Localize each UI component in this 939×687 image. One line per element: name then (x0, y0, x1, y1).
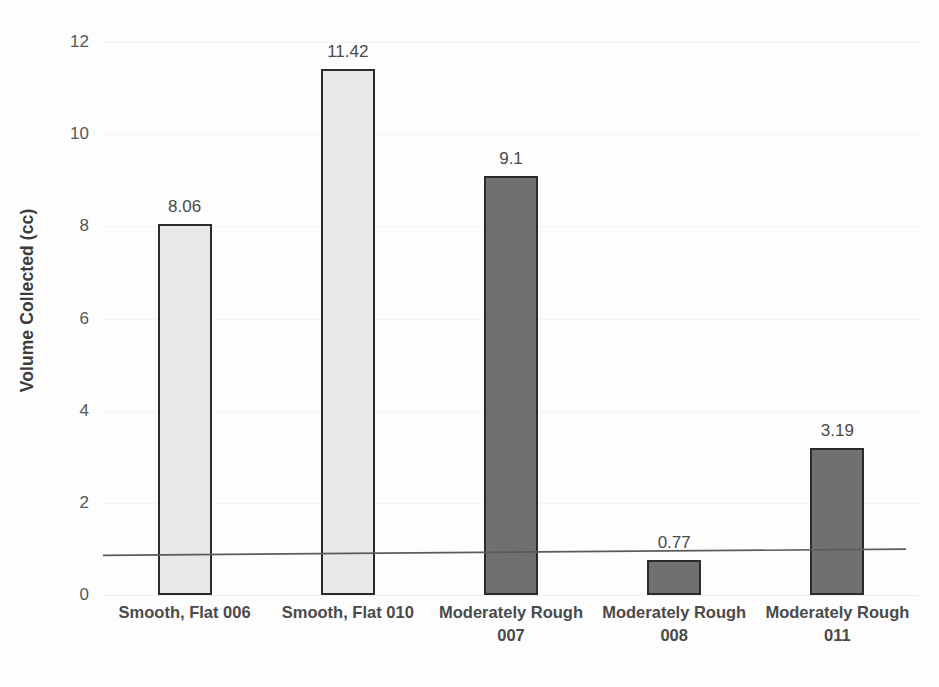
y-tick-label: 6 (57, 309, 103, 329)
y-tick-label: 0 (57, 585, 103, 605)
bar-value-label-5: 3.19 (821, 421, 854, 441)
bar-value-label-2: 11.42 (327, 42, 368, 62)
y-axis-tick-labels: 024681012 (43, 42, 103, 595)
x-label-4: Moderately Rough 008 (592, 601, 757, 648)
x-label-3: Moderately Rough 007 (429, 601, 594, 648)
bar-1 (158, 224, 212, 595)
x-axis-category-labels: Smooth, Flat 006Smooth, Flat 010Moderate… (103, 601, 919, 681)
bar-2 (321, 69, 375, 595)
bar-value-label-1: 8.06 (168, 197, 201, 217)
bar-3 (484, 176, 538, 595)
bar-value-label-3: 9.1 (499, 149, 523, 169)
y-tick-label: 8 (57, 216, 103, 236)
x-label-2: Smooth, Flat 010 (265, 601, 430, 624)
x-label-1: Smooth, Flat 006 (102, 601, 267, 624)
y-tick-label: 10 (57, 124, 103, 144)
bar-value-label-4: 0.77 (658, 533, 691, 553)
gridline (103, 595, 919, 596)
y-tick-label: 12 (57, 32, 103, 52)
y-tick-label: 4 (57, 401, 103, 421)
bar-4 (647, 560, 701, 595)
y-tick-label: 2 (57, 493, 103, 513)
gridline (103, 42, 919, 43)
y-axis-title-text: Volume Collected (cc) (18, 208, 39, 392)
bar-chart: Volume Collected (cc) 024681012 8.0611.4… (0, 0, 939, 687)
plot-area: 8.0611.429.10.773.19 (103, 42, 919, 595)
bar-5 (810, 448, 864, 595)
y-axis-title: Volume Collected (cc) (8, 0, 48, 600)
gridline (103, 134, 919, 135)
x-label-5: Moderately Rough 011 (755, 601, 920, 648)
